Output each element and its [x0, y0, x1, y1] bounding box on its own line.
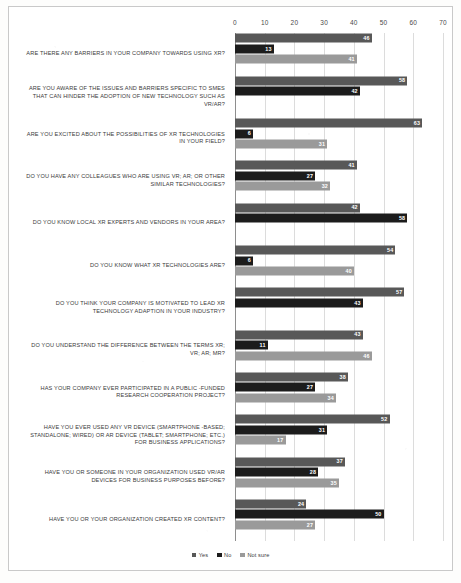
plot-area: 010203040506070 ARE THERE ANY BARRIERS I…: [9, 7, 452, 570]
bar-value-label: 58: [399, 215, 407, 220]
bar-set: 382734: [235, 372, 443, 414]
bar-yes[interactable]: 38: [235, 372, 348, 381]
x-tick-label-30: 30: [320, 19, 328, 26]
bar-value-label: 27: [307, 173, 315, 178]
bar-no[interactable]: 27: [235, 383, 315, 392]
bar-value-label: 46: [363, 36, 371, 41]
bar-no[interactable]: 13: [235, 44, 274, 53]
legend-label: No: [224, 552, 231, 558]
bar-not_sure[interactable]: 32: [235, 182, 330, 191]
bar-not_sure[interactable]: 41: [235, 55, 357, 64]
question-label: DO YOU HAVE ANY COLLEAGUES WHO ARE USING…: [20, 174, 225, 189]
bar-yes[interactable]: 57: [235, 288, 404, 297]
bar-row: 35: [235, 477, 443, 488]
bar-value-label: 6: [248, 131, 253, 136]
bar-no[interactable]: 42: [235, 87, 360, 96]
bar-row: 58: [235, 213, 443, 224]
bar-yes[interactable]: 37: [235, 457, 345, 466]
bar-yes[interactable]: 52: [235, 415, 390, 424]
chart-figure: 010203040506070 ARE THERE ANY BARRIERS I…: [8, 6, 453, 571]
bar-not_sure[interactable]: 35: [235, 478, 339, 487]
bar-value-label: 41: [348, 57, 356, 62]
bar-no[interactable]: 58: [235, 214, 407, 223]
bar-row: 41: [235, 54, 443, 65]
bar-value-label: 27: [307, 385, 315, 390]
legend-item-no[interactable]: No: [217, 552, 231, 558]
bar-yes[interactable]: 58: [235, 76, 407, 85]
bar-no[interactable]: 6: [235, 129, 253, 138]
bar-yes[interactable]: 41: [235, 161, 357, 170]
bar-yes[interactable]: 42: [235, 203, 360, 212]
bar-no[interactable]: 27: [235, 171, 315, 180]
bar-not_sure[interactable]: 17: [235, 436, 286, 445]
bar-group: DO YOU UNDERSTAND THE DIFFERENCE BETWEEN…: [9, 329, 443, 371]
legend-item-not_sure[interactable]: Not sure: [240, 552, 269, 558]
question-label: DO YOU UNDERSTAND THE DIFFERENCE BETWEEN…: [20, 343, 225, 358]
bar-row: 46: [235, 33, 443, 44]
bar-no[interactable]: 31: [235, 425, 327, 434]
bar-row: 13: [235, 44, 443, 55]
x-tick-label-40: 40: [350, 19, 358, 26]
bar-group: DO YOU THINK YOUR COMPANY IS MOTIVATED T…: [9, 287, 443, 329]
bar-value-label: 37: [337, 459, 345, 464]
bar-row: 58: [235, 75, 443, 86]
question-label: ARE YOU EXCITED ABOUT THE POSSIBILITIES …: [20, 131, 225, 146]
bar-not_sure[interactable]: 31: [235, 140, 327, 149]
question-label: DO YOU KNOW WHAT XR TECHNOLOGIES ARE?: [20, 262, 225, 270]
bar-yes[interactable]: 63: [235, 118, 422, 127]
bar-no[interactable]: 43: [235, 298, 363, 307]
bar-row: 41: [235, 160, 443, 171]
bar-set: 5842: [235, 75, 443, 117]
bar-not_sure[interactable]: 46: [235, 351, 372, 360]
bar-value-label: 40: [345, 268, 353, 273]
bar-row: 27: [235, 520, 443, 531]
bar-not_sure[interactable]: 34: [235, 394, 336, 403]
bar-row: 27: [235, 382, 443, 393]
bar-yes[interactable]: 43: [235, 330, 363, 339]
question-label: HAVE YOU OR SOMEONE IN YOUR ORGANIZATION…: [20, 470, 225, 485]
bar-group: ARE YOU EXCITED ABOUT THE POSSIBILITIES …: [9, 118, 443, 160]
question-label: HAVE YOU EVER USED ANY VR DEVICE (SMARTP…: [20, 424, 225, 447]
bar-set: 54640: [235, 245, 443, 287]
x-tick-label-70: 70: [439, 19, 447, 26]
question-label: HAS YOUR COMPANY EVER PARTICIPATED IN A …: [20, 385, 225, 400]
question-label: DO YOU THINK YOUR COMPANY IS MOTIVATED T…: [20, 301, 225, 316]
bar-yes[interactable]: 54: [235, 245, 395, 254]
bar-row: 42: [235, 86, 443, 97]
bar-group: ARE YOU AWARE OF THE ISSUES AND BARRIERS…: [9, 75, 443, 117]
legend-label: Yes: [199, 552, 208, 558]
x-tick-label-50: 50: [380, 19, 388, 26]
bar-row: 40: [235, 266, 443, 277]
bar-value-label: 13: [265, 46, 273, 51]
bar-value-label: 50: [375, 512, 383, 517]
bar-row: 31: [235, 139, 443, 150]
bar-value-label: 38: [340, 374, 348, 379]
x-tick-label-10: 10: [261, 19, 269, 26]
bar-row: 17: [235, 435, 443, 446]
bar-value-label: 6: [248, 258, 253, 263]
bar-yes[interactable]: 46: [235, 34, 372, 43]
bar-value-label: 17: [277, 438, 285, 443]
bar-row: 11: [235, 340, 443, 351]
legend-item-yes[interactable]: Yes: [192, 552, 208, 558]
bar-set: 5743: [235, 287, 443, 329]
bar-value-label: 31: [319, 141, 327, 146]
question-label: HAVE YOU OR YOUR ORGANIZATION CREATED XR…: [20, 516, 225, 524]
bar-value-label: 42: [351, 88, 359, 93]
bar-set: 372835: [235, 456, 443, 498]
bar-group: ARE THERE ANY BARRIERS IN YOUR COMPANY T…: [9, 33, 443, 75]
bar-value-label: 41: [348, 163, 356, 168]
bar-row: 42: [235, 202, 443, 213]
bar-group: DO YOU KNOW WHAT XR TECHNOLOGIES ARE?546…: [9, 245, 443, 287]
bar-not_sure[interactable]: 40: [235, 267, 354, 276]
bar-value-label: 46: [363, 353, 371, 358]
bar-no[interactable]: 28: [235, 468, 318, 477]
bar-value-label: 54: [387, 247, 395, 252]
bar-no[interactable]: 50: [235, 510, 384, 519]
bar-group: DO YOU KNOW LOCAL XR EXPERTS AND VENDORS…: [9, 202, 443, 244]
chart-legend: YesNoNot sure: [9, 552, 452, 558]
bar-no[interactable]: 11: [235, 341, 268, 350]
bar-yes[interactable]: 24: [235, 499, 306, 508]
bar-not_sure[interactable]: 27: [235, 521, 315, 530]
bar-no[interactable]: 6: [235, 256, 253, 265]
